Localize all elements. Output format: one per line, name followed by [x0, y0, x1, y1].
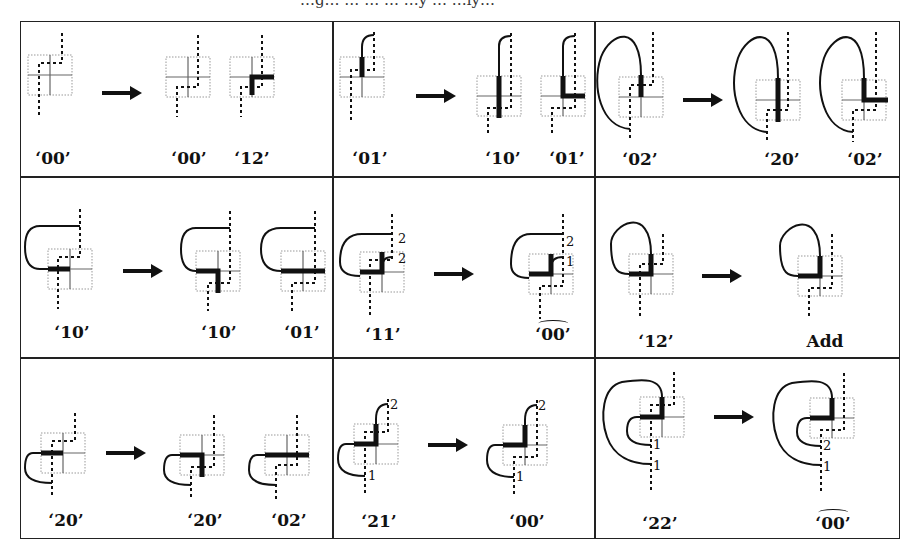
tile-r2c1-after-b — [261, 211, 325, 311]
state-label: ‘20’ — [48, 510, 84, 530]
strand-count: 1 — [653, 458, 661, 473]
tile-r1c2-after-a — [477, 33, 521, 136]
diagram-canvas: 2 2 2 1 — [0, 0, 913, 558]
state-label: ‘20’ — [764, 149, 800, 169]
state-label: ‘21’ — [361, 511, 397, 531]
state-label: ‘01’ — [352, 148, 388, 168]
state-label: ‘10’ — [485, 148, 521, 168]
strand-count: 2 — [398, 251, 406, 266]
tile-r2c3-before — [611, 223, 673, 316]
strand-count: 2 — [538, 398, 546, 413]
tile-r1c2-after-b — [541, 33, 585, 136]
tile-r1c1-before — [28, 33, 72, 115]
tile-r3c1-after-b — [249, 415, 309, 500]
strand-count: 1 — [566, 254, 574, 269]
strand-count: 2 — [566, 234, 574, 249]
tile-r2c2-after — [511, 214, 573, 319]
state-label: ‘20’ — [187, 510, 223, 530]
state-label: ‘11’ — [365, 324, 401, 344]
state-label: ‘22’ — [642, 513, 678, 533]
state-label: ‘02’ — [847, 149, 883, 169]
tile-r3c1-after-a — [164, 415, 224, 500]
state-label: ‘01’ — [284, 322, 320, 342]
strand-count: 1 — [653, 437, 661, 452]
tile-r1c1-after-a — [166, 35, 210, 117]
tile-r1c1-after-b — [230, 35, 274, 117]
state-label: ‘02’ — [271, 510, 307, 530]
strand-count: 2 — [390, 397, 398, 412]
tile-r3c3-after — [773, 373, 854, 493]
strand-count: 1 — [368, 468, 376, 483]
state-label: ‘10’ — [201, 322, 237, 342]
state-label: ‘12’ — [234, 148, 270, 168]
tile-r2c1-after-a — [181, 211, 240, 311]
state-label: ‘00’ — [509, 511, 545, 531]
strand-count: 1 — [823, 459, 831, 474]
state-label: ‘00’ — [35, 148, 71, 168]
state-label-hat: ‘00’ — [815, 513, 851, 533]
state-label-hat: ‘00’ — [535, 324, 571, 344]
strand-count: 2 — [823, 438, 831, 453]
tile-r2c1-before — [25, 209, 92, 309]
tile-r1c3-after-a — [734, 32, 800, 142]
tile-r1c3-before — [597, 32, 663, 139]
action-label: Add — [807, 331, 844, 351]
strand-count: 1 — [516, 469, 524, 484]
state-label: ‘01’ — [549, 148, 585, 168]
state-label: ‘10’ — [54, 322, 90, 342]
tile-r2c3-after — [780, 225, 842, 318]
tile-r3c1-before — [25, 413, 85, 498]
state-label: ‘12’ — [638, 331, 674, 351]
strand-count: 2 — [398, 231, 406, 246]
tile-r3c3-before — [603, 372, 684, 492]
state-label: ‘02’ — [622, 149, 658, 169]
tile-r2c2-before — [340, 214, 404, 317]
tile-r1c3-after-b — [820, 32, 888, 142]
state-label: ‘00’ — [171, 148, 207, 168]
tile-r1c2-before — [340, 32, 384, 122]
